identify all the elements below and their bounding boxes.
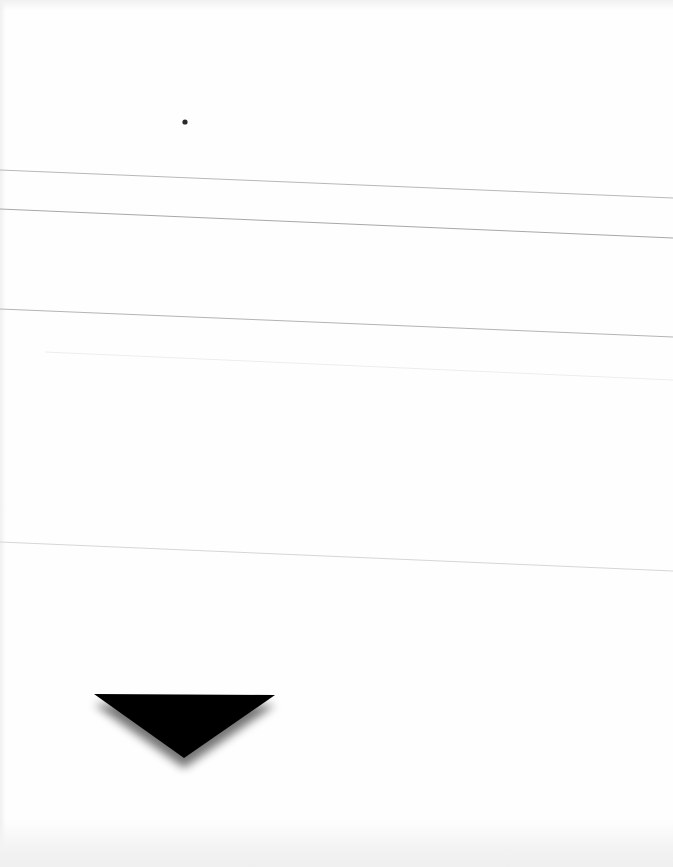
ruled-lines: [0, 170, 673, 571]
ruled-line-4: [45, 352, 673, 380]
ruled-line-2: [0, 209, 673, 238]
ruled-line-5: [0, 542, 673, 571]
bullet-dot: [182, 119, 187, 124]
down-triangle-icon: [94, 694, 275, 758]
page-graphics: [0, 0, 673, 867]
ruled-line-1: [0, 170, 673, 198]
document-page: [0, 0, 673, 867]
ruled-line-3: [0, 309, 673, 337]
